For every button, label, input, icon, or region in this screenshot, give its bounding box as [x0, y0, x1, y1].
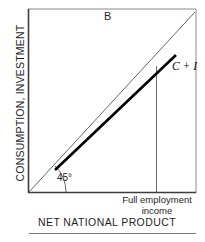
c-plus-i-curve: [55, 55, 176, 170]
x-axis-label: NET NATIONAL PRODUCT: [12, 216, 202, 228]
forty-five-degree-line: [29, 12, 195, 192]
bottom-divider: [29, 233, 196, 234]
full-employment-annotation: Full employment income: [111, 195, 203, 216]
angle-label: 45°: [57, 172, 72, 183]
full-employment-line-2: income: [111, 206, 203, 217]
keynesian-cross-figure-b: CONSUMPTION, INVESTMENT B C + I 45° Full…: [0, 0, 205, 242]
panel-letter: B: [104, 10, 111, 22]
full-employment-line-1: Full employment: [122, 194, 192, 205]
c-plus-i-label: C + I: [172, 60, 197, 72]
